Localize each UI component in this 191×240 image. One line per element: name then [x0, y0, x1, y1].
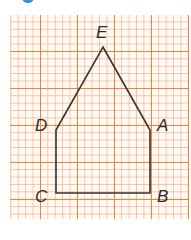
- vertex-label-e: E: [96, 24, 107, 41]
- vertex-label-d: D: [35, 117, 47, 134]
- vertex-label-b: B: [157, 188, 168, 205]
- vertex-label-a: A: [157, 117, 168, 134]
- vertex-label-c: C: [35, 188, 47, 205]
